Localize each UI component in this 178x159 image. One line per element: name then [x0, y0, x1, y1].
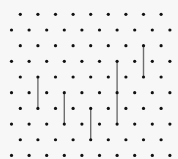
grid-dot[interactable]: [10, 91, 13, 94]
grid-dot[interactable]: [142, 13, 145, 16]
grid-dot[interactable]: [168, 122, 171, 125]
grid-dot[interactable]: [80, 28, 83, 31]
grid-dot[interactable]: [89, 13, 92, 16]
grid-dot[interactable]: [133, 154, 136, 157]
grid-dot[interactable]: [89, 75, 92, 78]
grid-dot[interactable]: [10, 122, 13, 125]
grid-dot[interactable]: [98, 122, 101, 125]
drawn-lines: [38, 46, 144, 140]
grid-dot[interactable]: [116, 122, 119, 125]
grid-dot[interactable]: [54, 75, 57, 78]
grid-dot[interactable]: [45, 60, 48, 63]
grid-dot[interactable]: [168, 154, 171, 157]
grid-dot[interactable]: [124, 75, 127, 78]
grid-dot[interactable]: [89, 107, 92, 110]
grid-dot[interactable]: [151, 154, 154, 157]
grid-dot[interactable]: [151, 60, 154, 63]
grid-dot[interactable]: [116, 28, 119, 31]
grid-dot[interactable]: [142, 107, 145, 110]
grid-dot[interactable]: [133, 91, 136, 94]
grid-dot[interactable]: [54, 13, 57, 16]
grid-dot[interactable]: [107, 138, 110, 141]
grid-dot[interactable]: [124, 107, 127, 110]
grid-dot[interactable]: [133, 28, 136, 31]
grid-dot[interactable]: [168, 91, 171, 94]
grid-dot[interactable]: [160, 107, 163, 110]
grid-dot[interactable]: [19, 138, 22, 141]
grid-dot[interactable]: [142, 75, 145, 78]
grid-dot[interactable]: [98, 91, 101, 94]
grid-dot[interactable]: [63, 122, 66, 125]
grid-dot[interactable]: [19, 44, 22, 47]
grid-dot[interactable]: [89, 44, 92, 47]
grid-dot[interactable]: [36, 44, 39, 47]
grid-dot[interactable]: [72, 44, 75, 47]
grid-dot[interactable]: [63, 154, 66, 157]
grid-dot[interactable]: [28, 122, 31, 125]
grid-dot[interactable]: [98, 28, 101, 31]
grid-dot[interactable]: [19, 13, 22, 16]
grid-dot[interactable]: [28, 28, 31, 31]
dot-grid-board[interactable]: [0, 0, 178, 159]
grid-dot[interactable]: [116, 60, 119, 63]
grid-dot[interactable]: [72, 13, 75, 16]
grid-dot[interactable]: [160, 44, 163, 47]
grid-dot[interactable]: [151, 91, 154, 94]
grid-dot[interactable]: [80, 91, 83, 94]
grid-dot[interactable]: [54, 107, 57, 110]
grid-dot[interactable]: [54, 138, 57, 141]
grid-dot[interactable]: [124, 44, 127, 47]
grid-dot[interactable]: [89, 138, 92, 141]
grid-dot[interactable]: [98, 60, 101, 63]
grid-dot[interactable]: [10, 28, 13, 31]
grid-dot[interactable]: [160, 13, 163, 16]
grid-dot[interactable]: [160, 75, 163, 78]
grid-dot[interactable]: [107, 75, 110, 78]
grid-dot[interactable]: [160, 138, 163, 141]
grid-dot[interactable]: [36, 75, 39, 78]
grid-dot[interactable]: [36, 138, 39, 141]
grid-dot[interactable]: [80, 154, 83, 157]
grid-dot[interactable]: [168, 28, 171, 31]
grid-dot[interactable]: [63, 60, 66, 63]
grid-dot[interactable]: [142, 138, 145, 141]
grid-dot[interactable]: [142, 44, 145, 47]
grid-dot[interactable]: [116, 154, 119, 157]
grid-dot[interactable]: [107, 44, 110, 47]
grid-dot[interactable]: [151, 122, 154, 125]
grid-dot[interactable]: [72, 138, 75, 141]
grid-dot[interactable]: [133, 60, 136, 63]
grid-dot[interactable]: [10, 60, 13, 63]
grid-dot[interactable]: [45, 91, 48, 94]
grid-dot[interactable]: [28, 154, 31, 157]
grid-dot[interactable]: [45, 28, 48, 31]
grid-dot[interactable]: [19, 107, 22, 110]
grid-dot[interactable]: [107, 13, 110, 16]
board-canvas[interactable]: [0, 0, 178, 159]
grid-dot[interactable]: [124, 138, 127, 141]
grid-dot[interactable]: [124, 13, 127, 16]
grid-dot[interactable]: [54, 44, 57, 47]
grid-dot[interactable]: [107, 107, 110, 110]
grid-dot[interactable]: [28, 91, 31, 94]
grid-dot[interactable]: [36, 107, 39, 110]
grid-dot[interactable]: [28, 60, 31, 63]
grid-dot[interactable]: [63, 91, 66, 94]
grid-dot[interactable]: [10, 154, 13, 157]
grid-dot[interactable]: [63, 28, 66, 31]
grid-dot[interactable]: [36, 13, 39, 16]
grid-dot[interactable]: [168, 60, 171, 63]
grid-dot[interactable]: [116, 91, 119, 94]
grid-dot[interactable]: [151, 28, 154, 31]
grid-dot[interactable]: [98, 154, 101, 157]
grid-dot[interactable]: [72, 75, 75, 78]
grid-dot[interactable]: [72, 107, 75, 110]
grid-dot[interactable]: [80, 122, 83, 125]
grid-dot[interactable]: [45, 122, 48, 125]
grid-dot[interactable]: [45, 154, 48, 157]
grid-dot[interactable]: [19, 75, 22, 78]
grid-dot[interactable]: [133, 122, 136, 125]
grid-dot[interactable]: [80, 60, 83, 63]
